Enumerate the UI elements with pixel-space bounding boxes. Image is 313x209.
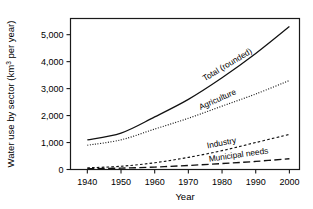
x-tick-label: 1970 [178, 177, 198, 187]
y-tick-label: 0 [58, 165, 63, 175]
x-tick-label: 1990 [246, 177, 266, 187]
water-use-line-chart: 01,0002,0003,0004,0005,000 1940195019601… [0, 0, 313, 209]
x-tick-label: 2000 [279, 177, 299, 187]
y-axis-title-main: Water use by sector (km [5, 65, 16, 168]
y-axis-tick-labels: 01,0002,0003,0004,0005,000 [41, 30, 64, 175]
chart-container: 01,0002,0003,0004,0005,000 1940195019601… [0, 0, 313, 209]
x-axis-ticks [87, 170, 289, 174]
x-tick-label: 1980 [212, 177, 232, 187]
y-tick-label: 3,000 [41, 84, 64, 94]
series-line [87, 159, 289, 169]
x-tick-label: 1940 [77, 177, 97, 187]
y-tick-label: 1,000 [41, 138, 64, 148]
x-axis-tick-labels: 1940195019601970198019902000 [77, 177, 299, 187]
series-line [87, 81, 289, 146]
y-tick-label: 2,000 [41, 111, 64, 121]
x-tick-label: 1960 [145, 177, 165, 187]
series-inline-labels: Total (rounded)AgricultureIndustryMunici… [197, 46, 269, 164]
x-axis-title: Year [175, 191, 194, 202]
x-tick-label: 1950 [111, 177, 131, 187]
y-tick-label: 5,000 [41, 30, 64, 40]
series-line [87, 27, 289, 140]
series-label-total-rounded: Total (rounded) [201, 46, 254, 83]
y-axis-title-tail: per year) [5, 21, 16, 62]
y-tick-label: 4,000 [41, 57, 64, 67]
series-label-industry: Industry [206, 135, 238, 151]
y-axis-title: Water use by sector (km3 per year) [5, 21, 16, 168]
